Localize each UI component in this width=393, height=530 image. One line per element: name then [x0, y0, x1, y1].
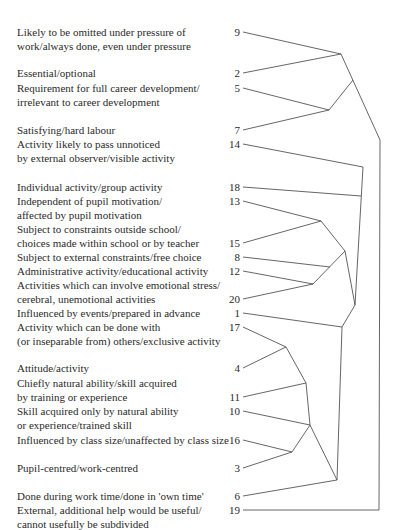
dendrogram-tree [0, 0, 393, 530]
